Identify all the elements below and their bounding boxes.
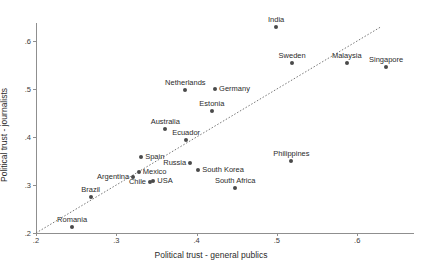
- y-tick-label: .6: [25, 37, 31, 46]
- data-point: [183, 88, 187, 92]
- y-tick: [33, 41, 36, 42]
- y-tick: [33, 233, 36, 234]
- data-point-label: Romania: [57, 215, 87, 223]
- data-point: [137, 170, 141, 174]
- data-point: [290, 61, 294, 65]
- scatter-plot-figure: .2.3.4.5.6.2.3.4.5.6 IndiaSwedenMalaysia…: [0, 0, 422, 270]
- data-point: [70, 225, 74, 229]
- data-point: [345, 61, 349, 65]
- data-point-label: Spain: [145, 153, 164, 161]
- data-point-label: Malaysia: [332, 52, 362, 60]
- data-point: [274, 25, 278, 29]
- data-point-label: Ecuador: [172, 128, 200, 136]
- y-tick: [33, 185, 36, 186]
- x-tick-label: .5: [274, 236, 280, 245]
- data-point-label: Brazil: [81, 186, 100, 194]
- data-point: [233, 186, 237, 190]
- identity-reference-line: [36, 27, 381, 233]
- data-point: [210, 109, 214, 113]
- data-point: [163, 127, 167, 131]
- y-tick: [33, 137, 36, 138]
- data-point: [89, 195, 93, 199]
- data-point: [213, 87, 217, 91]
- data-point-label: Russia: [163, 159, 186, 167]
- data-point: [139, 155, 143, 159]
- y-tick-label: .5: [25, 85, 31, 94]
- data-point-label: Australia: [151, 117, 180, 125]
- data-point-label: Singapore: [369, 55, 403, 63]
- data-point: [196, 168, 200, 172]
- data-point-label: Sweden: [279, 52, 306, 60]
- data-point-label: Estonia: [199, 100, 224, 108]
- data-point: [188, 161, 192, 165]
- y-tick: [33, 89, 36, 90]
- y-tick-label: .2: [25, 229, 31, 238]
- y-axis-line: [36, 23, 37, 233]
- x-tick-label: .4: [193, 236, 199, 245]
- y-tick-label: .3: [25, 181, 31, 190]
- reference-line: [0, 0, 422, 270]
- data-point-label: Netherlands: [165, 78, 205, 86]
- data-point-label: India: [268, 16, 284, 24]
- data-point-label: Philippines: [273, 150, 309, 158]
- x-tick-label: .6: [354, 236, 360, 245]
- data-point: [151, 179, 155, 183]
- data-point: [289, 159, 293, 163]
- data-point: [384, 65, 388, 69]
- data-point-label: South Africa: [215, 176, 255, 184]
- x-tick-label: .3: [113, 236, 119, 245]
- data-point-label: Chile: [129, 178, 146, 186]
- y-axis-title: Political trust - journalists: [0, 88, 9, 182]
- data-point: [184, 138, 188, 142]
- data-point-label: Mexico: [143, 168, 167, 176]
- data-point-label: Argentina: [97, 173, 129, 181]
- x-axis-title: Political trust - general publics: [0, 250, 422, 260]
- data-point-label: USA: [157, 177, 172, 185]
- data-point-label: Germany: [219, 85, 250, 93]
- y-tick-label: .4: [25, 133, 31, 142]
- data-point-label: South Korea: [202, 166, 244, 174]
- x-tick-label: .2: [33, 236, 39, 245]
